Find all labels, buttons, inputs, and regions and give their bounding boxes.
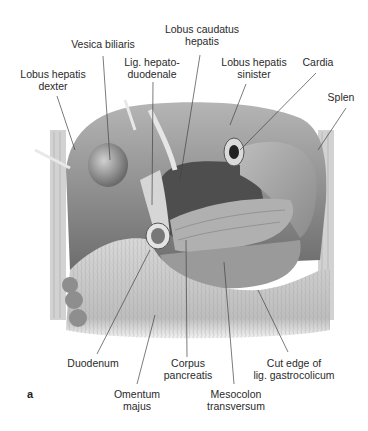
- label-line: Cardia: [303, 56, 334, 68]
- label-omentum-majus: Omentum majus: [114, 388, 160, 412]
- label-line: Duodenum: [67, 357, 118, 369]
- label-line: Omentum: [114, 388, 160, 400]
- label-line: Corpus: [164, 357, 212, 369]
- label-line: duodenale: [124, 68, 179, 80]
- label-line: hepatis: [165, 35, 239, 47]
- label-line: Lig. hepato-: [124, 56, 179, 68]
- label-cardia: Cardia: [303, 56, 334, 68]
- label-line: Lobus hepatis: [20, 68, 85, 80]
- label-mesocolon-transversum: Mesocolon transversum: [207, 388, 265, 412]
- label-line: Lobus caudatus: [165, 23, 239, 35]
- label-line: Cut edge of: [253, 357, 334, 369]
- figure-letter: a: [27, 388, 33, 400]
- label-lobus-hepatis-sinister: Lobus hepatis sinister: [221, 56, 286, 80]
- label-line: pancreatis: [164, 369, 212, 381]
- label-line: sinister: [221, 68, 286, 80]
- label-line: majus: [114, 400, 160, 412]
- gallbladder: [88, 143, 128, 187]
- label-lobus-caudatus-hepatis: Lobus caudatus hepatis: [165, 23, 239, 47]
- label-line: transversum: [207, 400, 265, 412]
- label-corpus-pancreatis: Corpus pancreatis: [164, 357, 212, 381]
- label-splen: Splen: [328, 91, 355, 103]
- label-line: Vesica biliaris: [71, 38, 135, 50]
- label-lobus-hepatis-dexter: Lobus hepatis dexter: [20, 68, 85, 92]
- label-cut-edge-lig-gastrocolicum: Cut edge of lig. gastrocolicum: [253, 357, 334, 381]
- label-line: Mesocolon: [207, 388, 265, 400]
- label-line: Lobus hepatis: [221, 56, 286, 68]
- label-lig-hepatoduodenale: Lig. hepato- duodenale: [124, 56, 179, 80]
- label-line: dexter: [20, 80, 85, 92]
- label-duodenum: Duodenum: [67, 357, 118, 369]
- label-line: Splen: [328, 91, 355, 103]
- label-vesica-biliaris: Vesica biliaris: [71, 38, 135, 50]
- label-line: lig. gastrocolicum: [253, 369, 334, 381]
